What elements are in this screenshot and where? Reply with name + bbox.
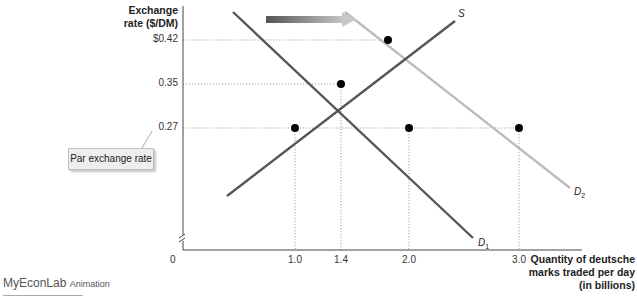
point-d1-2.0: [405, 124, 413, 132]
supply-curve: [227, 21, 455, 196]
y-tick-042: $0.42: [128, 33, 178, 44]
y-tick-035: 0.35: [128, 77, 178, 88]
shift-arrow-icon: [266, 12, 356, 27]
d2-subscript: 2: [581, 192, 585, 199]
demand-curve-d1: [233, 12, 473, 238]
guide-lines: [183, 40, 519, 250]
point-s-1.0: [291, 124, 299, 132]
par-exchange-rate-callout: Par exchange rate: [68, 148, 154, 170]
origin-label: 0: [170, 254, 176, 265]
x-tick-20: 2.0: [394, 254, 424, 265]
point-d2-3.0: [515, 124, 523, 132]
callout-pointer: [142, 131, 152, 148]
x-tick-10: 1.0: [280, 254, 310, 265]
x-tick-14: 1.4: [326, 254, 356, 265]
demand-curve-d2: [345, 12, 570, 188]
footer-brand-sub: Animation: [70, 279, 110, 289]
supply-curve-label: S: [458, 8, 465, 19]
equilibrium-points: [291, 36, 523, 132]
d1-subscript: 1: [485, 243, 489, 250]
y-tick-027: 0.27: [128, 121, 178, 132]
y-axis-label-line1: Exchange: [108, 4, 178, 17]
footer-divider: [3, 295, 83, 296]
footer-brand-name: MyEconLab: [3, 276, 66, 290]
x-axis-label-line1: Quantity of deutsche: [522, 253, 635, 266]
point-equilibrium-1.4: [337, 80, 345, 88]
x-axis-label: Quantity of deutsche marks traded per da…: [522, 253, 635, 292]
axis-break-icon: [179, 234, 185, 242]
y-axis-label: Exchange rate ($/DM): [108, 4, 178, 30]
footer-brand[interactable]: MyEconLab Animation: [3, 276, 110, 290]
x-axis-label-line3: (in billions): [522, 279, 635, 292]
x-axis-label-line2: marks traded per day: [522, 266, 635, 279]
demand-curve-d1-label: D1: [478, 237, 489, 250]
point-equilibrium-1.8: [384, 36, 392, 44]
y-axis-label-line2: rate ($/DM): [108, 17, 178, 30]
demand-curve-d2-label: D2: [574, 186, 585, 199]
